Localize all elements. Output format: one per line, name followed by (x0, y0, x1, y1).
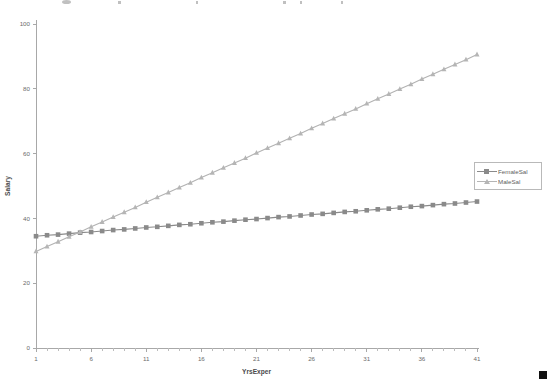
data-point-marker-femalesal (464, 200, 469, 205)
data-point-marker-femalesal (254, 217, 259, 222)
data-point-marker-femalesal (420, 204, 425, 209)
legend-label-femalesal: FemaleSal (497, 167, 528, 176)
x-tick-label: 26 (308, 355, 315, 362)
y-tick-label: 60 (23, 150, 30, 157)
data-point-marker-femalesal (111, 228, 116, 233)
data-point-marker-femalesal (155, 225, 160, 230)
data-point-marker-femalesal (309, 212, 314, 217)
corner-square-marker (539, 371, 547, 379)
data-point-marker-femalesal (442, 202, 447, 207)
salary-vs-experience-chart: 0204060801001611162126313641YrsExperSala… (0, 0, 553, 386)
x-tick-label: 11 (143, 355, 150, 362)
plot-canvas: 0204060801001611162126313641YrsExperSala… (0, 0, 553, 386)
data-point-marker-femalesal (144, 225, 149, 230)
data-point-marker-femalesal (409, 204, 414, 209)
data-point-marker-malesal (475, 52, 480, 57)
data-point-marker-femalesal (431, 203, 436, 208)
data-point-marker-femalesal (265, 216, 270, 221)
data-point-marker-femalesal (453, 201, 458, 206)
square-marker-icon (477, 167, 497, 176)
x-tick-label: 21 (253, 355, 260, 362)
y-tick-label: 0 (27, 344, 31, 351)
data-point-marker-femalesal (276, 215, 281, 220)
y-tick-label: 100 (20, 20, 31, 27)
data-point-marker-femalesal (243, 217, 248, 222)
data-point-marker-femalesal (177, 223, 182, 228)
data-point-marker-femalesal (375, 207, 380, 212)
y-tick-label: 20 (23, 279, 30, 286)
data-point-marker-femalesal (100, 229, 105, 234)
x-tick-label: 36 (418, 355, 425, 362)
data-point-marker-femalesal (133, 226, 138, 231)
data-point-marker-femalesal (188, 222, 193, 227)
data-point-marker-femalesal (232, 218, 237, 223)
legend-item-malesal[interactable]: MaleSal (477, 176, 538, 186)
data-point-marker-femalesal (364, 208, 369, 213)
data-point-marker-femalesal (320, 212, 325, 217)
data-point-marker-femalesal (56, 232, 61, 237)
x-tick-label: 6 (89, 355, 93, 362)
x-tick-label: 41 (474, 355, 481, 362)
legend-item-femalesal[interactable]: FemaleSal (477, 166, 538, 176)
triangle-marker-icon (477, 177, 497, 186)
data-point-marker-femalesal (342, 210, 347, 215)
data-point-marker-femalesal (387, 206, 392, 211)
y-tick-label: 80 (23, 85, 30, 92)
data-point-marker-femalesal (199, 221, 204, 226)
data-point-marker-femalesal (122, 227, 127, 232)
data-point-marker-femalesal (298, 213, 303, 218)
data-point-marker-femalesal (221, 219, 226, 224)
x-tick-label: 31 (363, 355, 370, 362)
data-point-marker-femalesal (34, 234, 39, 239)
data-point-marker-femalesal (398, 205, 403, 210)
y-tick-label: 40 (23, 215, 30, 222)
data-point-marker-femalesal (89, 230, 94, 235)
x-tick-label: 16 (198, 355, 205, 362)
chart-legend: FemaleSal MaleSal (474, 162, 542, 190)
x-axis-title: YrsExper (242, 368, 271, 376)
legend-label-malesal: MaleSal (497, 177, 520, 186)
data-point-marker-femalesal (331, 211, 336, 216)
data-point-marker-femalesal (475, 199, 480, 204)
data-point-marker-femalesal (210, 220, 215, 225)
data-point-marker-femalesal (287, 214, 292, 219)
x-tick-label: 1 (34, 355, 38, 362)
y-axis-title: Salary (4, 176, 12, 196)
data-point-marker-femalesal (45, 233, 50, 238)
data-point-marker-femalesal (166, 224, 171, 229)
data-point-marker-femalesal (353, 209, 358, 214)
